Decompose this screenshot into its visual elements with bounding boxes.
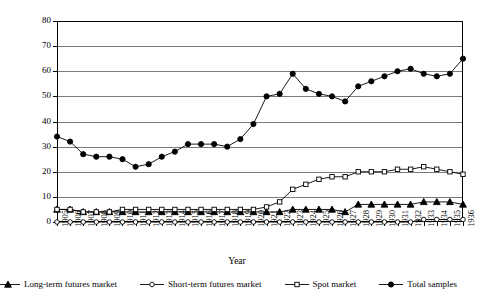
legend-item: Total samples bbox=[378, 279, 479, 290]
y-tick-label: 50 bbox=[11, 91, 51, 100]
x-tick-label: 1931 bbox=[401, 210, 410, 227]
x-tick-label: 1930 bbox=[388, 210, 397, 227]
y-tick-label: 70 bbox=[11, 41, 51, 50]
y-tick-label: 0 bbox=[11, 217, 51, 226]
x-tick-mark bbox=[109, 222, 110, 226]
gridline bbox=[58, 46, 462, 47]
x-tick-label: 1909 bbox=[113, 210, 122, 227]
x-tick-mark bbox=[175, 222, 176, 226]
y-tick-label: 60 bbox=[11, 66, 51, 75]
x-tick-label: 1928 bbox=[362, 210, 371, 227]
y-tick-mark bbox=[53, 46, 57, 47]
x-tick-mark bbox=[253, 222, 254, 226]
x-tick-mark bbox=[70, 222, 71, 226]
legend-marker-circle-filled-icon bbox=[378, 279, 404, 290]
legend-item: Short-term futures market bbox=[139, 279, 283, 290]
x-tick-mark bbox=[424, 222, 425, 226]
x-tick-mark bbox=[122, 222, 123, 226]
x-tick-mark bbox=[358, 222, 359, 226]
x-tick-mark bbox=[319, 222, 320, 226]
legend-label: Long-term futures market bbox=[24, 280, 139, 289]
legend-marker-circle-open-icon bbox=[139, 279, 165, 290]
x-tick-label: 1914 bbox=[178, 210, 187, 227]
x-tick-label: 1905 bbox=[61, 210, 70, 227]
x-tick-label: 1929 bbox=[375, 210, 384, 227]
x-tick-mark bbox=[227, 222, 228, 226]
legend-marker-triangle-filled-icon bbox=[0, 279, 21, 290]
x-tick-label: 1910 bbox=[126, 210, 135, 227]
y-tick-label: 10 bbox=[11, 192, 51, 201]
x-tick-mark bbox=[437, 222, 438, 226]
legend-label: Spot market bbox=[313, 280, 379, 289]
plot-area bbox=[57, 21, 463, 222]
chart-legend: Long-term futures marketShort-term futur… bbox=[0, 275, 474, 293]
legend-marker-square-open-icon bbox=[284, 279, 310, 290]
x-tick-label: 1919 bbox=[244, 210, 253, 227]
x-tick-mark bbox=[306, 222, 307, 226]
y-tick-mark bbox=[53, 71, 57, 72]
gridline bbox=[58, 71, 462, 72]
x-tick-label: 1922 bbox=[283, 210, 292, 227]
x-tick-mark bbox=[398, 222, 399, 226]
x-tick-mark bbox=[280, 222, 281, 226]
gridline bbox=[58, 96, 462, 97]
y-tick-mark bbox=[53, 122, 57, 123]
gridline bbox=[58, 172, 462, 173]
x-tick-mark bbox=[136, 222, 137, 226]
x-tick-label: 1924 bbox=[309, 210, 318, 227]
y-tick-label: 30 bbox=[11, 142, 51, 151]
x-tick-label: 1916 bbox=[205, 210, 214, 227]
x-tick-mark bbox=[83, 222, 84, 226]
x-tick-label: 1906 bbox=[74, 210, 83, 227]
y-tick-label: 80 bbox=[11, 16, 51, 25]
x-tick-mark bbox=[293, 222, 294, 226]
gridline bbox=[58, 147, 462, 148]
x-tick-label: 1908 bbox=[100, 210, 109, 227]
x-tick-mark bbox=[267, 222, 268, 226]
x-tick-label: 1926 bbox=[336, 210, 345, 227]
y-tick-mark bbox=[53, 147, 57, 148]
x-tick-label: 1921 bbox=[270, 210, 279, 227]
x-tick-label: 1927 bbox=[349, 210, 358, 227]
y-tick-mark bbox=[53, 197, 57, 198]
legend-label: Short-term futures market bbox=[168, 280, 283, 289]
x-tick-mark bbox=[57, 222, 58, 226]
x-tick-label: 1925 bbox=[322, 210, 331, 227]
x-tick-mark bbox=[149, 222, 150, 226]
x-tick-label: 1907 bbox=[87, 210, 96, 227]
x-tick-label: 1915 bbox=[191, 210, 200, 227]
x-tick-label: 1935 bbox=[453, 210, 462, 227]
x-tick-mark bbox=[214, 222, 215, 226]
y-tick-mark bbox=[53, 96, 57, 97]
x-tick-mark bbox=[332, 222, 333, 226]
x-tick-label: 1936 bbox=[467, 210, 476, 227]
gridline bbox=[58, 122, 462, 123]
x-tick-mark bbox=[384, 222, 385, 226]
x-tick-mark bbox=[411, 222, 412, 226]
x-tick-label: 1933 bbox=[427, 210, 436, 227]
x-tick-label: 1917 bbox=[218, 210, 227, 227]
x-tick-mark bbox=[345, 222, 346, 226]
x-tick-label: 1912 bbox=[152, 210, 161, 227]
y-tick-label: 20 bbox=[11, 167, 51, 176]
x-tick-mark bbox=[371, 222, 372, 226]
x-tick-label: 1923 bbox=[296, 210, 305, 227]
x-tick-label: 1918 bbox=[231, 210, 240, 227]
y-tick-label: 40 bbox=[11, 117, 51, 126]
y-tick-mark bbox=[53, 172, 57, 173]
x-tick-mark bbox=[240, 222, 241, 226]
x-tick-mark bbox=[188, 222, 189, 226]
legend-item: Spot market bbox=[284, 279, 379, 290]
x-axis-title: Year bbox=[0, 256, 474, 266]
gridline bbox=[58, 197, 462, 198]
x-tick-mark bbox=[463, 222, 464, 226]
x-tick-mark bbox=[450, 222, 451, 226]
legend-item: Long-term futures market bbox=[0, 279, 139, 290]
x-tick-label: 1920 bbox=[257, 210, 266, 227]
x-tick-mark bbox=[162, 222, 163, 226]
legend-label: Total samples bbox=[407, 280, 479, 289]
y-tick-mark bbox=[53, 21, 57, 22]
x-tick-label: 1913 bbox=[165, 210, 174, 227]
x-tick-mark bbox=[96, 222, 97, 226]
